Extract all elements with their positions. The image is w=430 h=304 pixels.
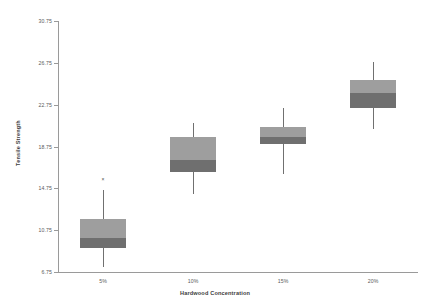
box-upper-quartile <box>260 127 306 136</box>
y-tick-label: 6.75 <box>10 269 52 275</box>
box-lower-quartile <box>170 160 216 173</box>
box-upper-quartile <box>80 219 126 238</box>
box-lower-quartile <box>350 93 396 109</box>
box-upper-quartile <box>170 137 216 160</box>
y-tick-mark <box>54 188 58 189</box>
y-tick-label: 10.75 <box>10 227 52 233</box>
y-tick-mark <box>54 21 58 22</box>
x-tick-label: 20% <box>353 278 393 284</box>
box-upper-quartile <box>350 80 396 93</box>
x-axis-title: Hardwood Concentration <box>0 290 430 296</box>
y-tick-mark <box>54 105 58 106</box>
box-plot-chart: 6.7510.7514.7518.7522.7526.7530.75 5%10%… <box>0 0 430 304</box>
y-tick-mark <box>54 147 58 148</box>
y-tick-mark <box>54 272 58 273</box>
y-tick-mark <box>54 63 58 64</box>
x-tick-label: 15% <box>263 278 303 284</box>
y-tick-mark <box>54 230 58 231</box>
y-tick-label: 14.75 <box>10 185 52 191</box>
x-axis-line <box>58 272 418 273</box>
y-tick-label: 30.75 <box>10 18 52 24</box>
x-tick-label: 10% <box>173 278 213 284</box>
y-axis-line <box>58 21 59 272</box>
y-axis-title: Tensile Strength <box>15 103 21 183</box>
x-tick-label: 5% <box>83 278 123 284</box>
box-lower-quartile <box>80 238 126 248</box>
outlier-marker: × <box>99 177 107 182</box>
y-tick-label: 26.75 <box>10 60 52 66</box>
box-lower-quartile <box>260 137 306 144</box>
